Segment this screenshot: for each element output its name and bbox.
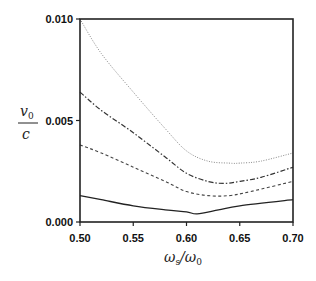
x-axis-ticks: 0.500.550.600.650.70	[69, 222, 303, 244]
svg-text:c: c	[22, 126, 30, 142]
y-tick-label: 0.005	[45, 115, 73, 127]
y-tick-label: 0.000	[45, 216, 73, 228]
x-tick-label: 0.50	[69, 232, 90, 244]
x-tick-label: 0.55	[123, 232, 144, 244]
curves	[80, 19, 293, 214]
svg-text:ωs/ω0: ωs/ω0	[164, 249, 202, 267]
series-dash-dot	[80, 92, 293, 183]
svg-text:v0: v0	[20, 103, 34, 121]
series-solid	[80, 196, 293, 214]
x-tick-label: 0.60	[176, 232, 197, 244]
y-axis-label: v0 c	[18, 103, 38, 142]
series-dotted	[80, 19, 293, 163]
series-dashed	[80, 145, 293, 196]
line-chart: 0.500.550.600.650.70 0.0000.0050.010 v0 …	[0, 0, 316, 281]
y-axis-ticks: 0.0000.0050.010	[45, 13, 80, 228]
y-tick-label: 0.010	[45, 13, 73, 25]
x-tick-label: 0.65	[229, 232, 250, 244]
x-tick-label: 0.70	[282, 232, 303, 244]
x-axis-label: ωs/ω0	[164, 249, 202, 267]
